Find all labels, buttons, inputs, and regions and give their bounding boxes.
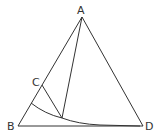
label-d: D — [145, 120, 153, 133]
side-ab — [18, 17, 82, 126]
curve-arc — [31, 103, 140, 126]
geometry-diagram: A B C D — [0, 0, 162, 135]
segment-ap — [62, 17, 82, 118]
label-a: A — [77, 4, 85, 17]
label-c: C — [32, 76, 40, 89]
label-b: B — [7, 120, 15, 133]
side-ad — [82, 17, 143, 126]
segment-cp — [42, 85, 62, 118]
